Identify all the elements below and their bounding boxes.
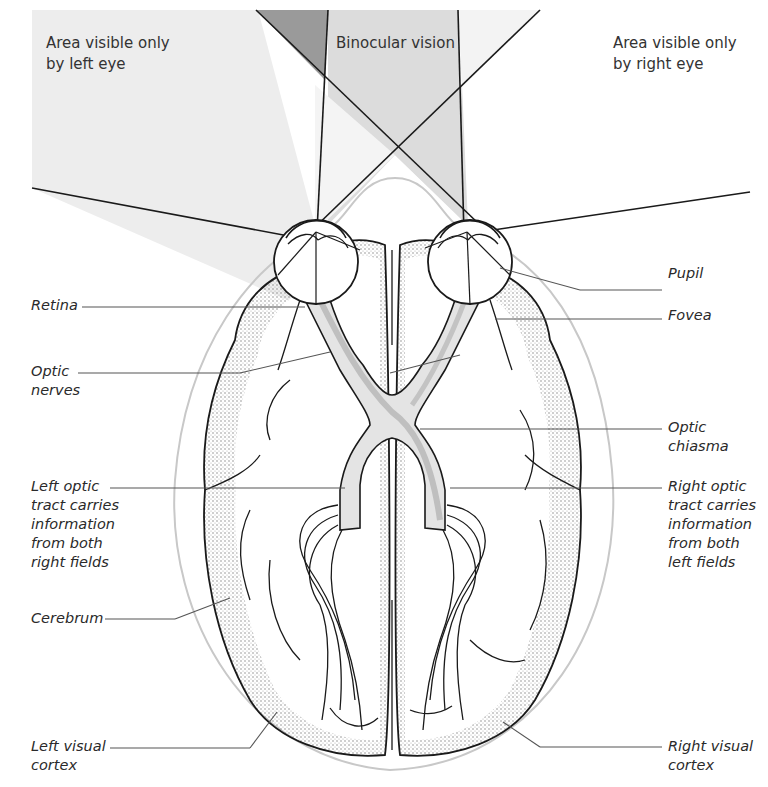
label-left-only-field: Area visible only by left eye — [46, 33, 170, 75]
label-optic-chiasma: Optic chiasma — [668, 418, 729, 456]
cerebrum — [204, 240, 581, 755]
label-right-only-field: Area visible only by right eye — [613, 33, 737, 75]
label-retina: Retina — [31, 296, 78, 315]
label-fovea: Fovea — [668, 306, 712, 325]
label-right-optic-tract: Right optic tract carries information fr… — [668, 477, 756, 572]
label-pupil: Pupil — [668, 264, 703, 283]
label-cerebrum: Cerebrum — [31, 609, 103, 628]
label-right-visual-cortex: Right visual cortex — [668, 737, 753, 775]
label-binocular-vision: Binocular vision — [336, 33, 455, 54]
visual-pathway-diagram — [0, 0, 768, 787]
label-optic-nerves: Optic nerves — [31, 362, 80, 400]
label-left-optic-tract: Left optic tract carries information fro… — [31, 477, 119, 572]
label-left-visual-cortex: Left visual cortex — [31, 737, 106, 775]
